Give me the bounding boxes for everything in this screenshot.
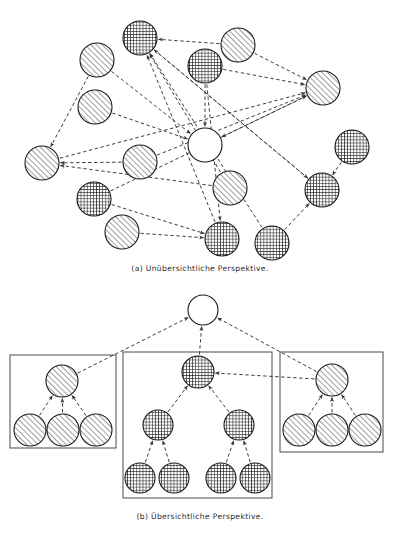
- grid-child-middle-left: [143, 410, 173, 440]
- grid-leaf-mr-2: [240, 463, 270, 493]
- hatch-child-right-1: [283, 414, 315, 446]
- caption-b: (b) Übersichtliche Perspektive.: [0, 512, 400, 521]
- panel-unuebersichtliche-perspektive: [0, 0, 400, 262]
- hatch-child-left-2: [47, 414, 79, 446]
- grid-node-bottom-mid: [205, 222, 239, 256]
- edge-a9-a8: [60, 162, 121, 163]
- hatch-node-far-right: [306, 71, 340, 105]
- edge-group-left-to-root: [78, 317, 189, 373]
- hatch-parent-left: [46, 365, 78, 397]
- grid-child-middle-right: [224, 410, 254, 440]
- hatch-child-right-2: [316, 414, 348, 446]
- edge-group-middle-to-root: [199, 326, 201, 354]
- grid-node-right-mid: [305, 173, 339, 207]
- diagram-b-canvas: [0, 285, 400, 503]
- empty-root-node: [188, 295, 218, 325]
- edge-bm-r2-bm-r: [244, 441, 250, 462]
- edge-a10-a12: [333, 162, 342, 175]
- caption-a: (a) Unübersichtliche Perspektive.: [0, 264, 400, 273]
- grid-node-right-high: [335, 130, 369, 164]
- hatch-parent-right: [316, 364, 348, 396]
- edge-bm-r1-bm-r: [226, 441, 233, 463]
- grid-node-bottom-right: [255, 226, 289, 260]
- hatch-node-bottom-left: [105, 215, 139, 249]
- edge-a4-a5: [223, 69, 305, 84]
- edge-br-c1-br-parent: [309, 395, 323, 416]
- grid-leaf-ml-1: [125, 463, 155, 493]
- edge-bm-l1-bm-l: [145, 441, 152, 463]
- grid-node-top: [123, 21, 157, 55]
- hatch-child-left-3: [80, 414, 112, 446]
- hatch-node-center-low: [213, 171, 247, 205]
- edge-br-c3-br-parent: [342, 395, 356, 416]
- edge-bl-c1-bl-parent: [40, 396, 53, 416]
- hatch-node-mid-low: [123, 145, 157, 179]
- edge-a14-a15: [140, 233, 203, 237]
- edge-group-right-to-root: [218, 318, 317, 372]
- hatch-node-upper-left: [80, 43, 114, 77]
- edge-bm-l2-bm-l: [163, 441, 169, 462]
- hatch-node-left-mid: [78, 90, 112, 124]
- grid-parent-middle: [182, 356, 214, 388]
- edge-a16-a12: [285, 203, 310, 229]
- hatch-node-left-low: [25, 146, 59, 180]
- edge-bm-r-bm-root: [209, 386, 229, 412]
- grid-node-upper-mid: [188, 49, 222, 83]
- edge-bm-l-bm-root: [168, 386, 188, 412]
- edge-a3-a5: [255, 53, 307, 79]
- grid-leaf-mr-1: [206, 463, 236, 493]
- grid-node-bottom-left: [77, 182, 111, 216]
- diagram-a-canvas: [0, 0, 400, 262]
- edge-a3-a1: [158, 39, 219, 43]
- empty-node-center: [188, 128, 222, 162]
- edge-bl-c3-bl-parent: [72, 395, 86, 415]
- hatch-node-top-right: [221, 28, 255, 62]
- panel-uebersichtliche-perspektive: [0, 285, 400, 503]
- hatch-child-right-3: [349, 414, 381, 446]
- edge-br-parent-bm-root: [215, 373, 314, 379]
- grid-leaf-ml-2: [159, 463, 189, 493]
- figure-container: (a) Unübersichtliche Perspektive. (b) Üb…: [0, 0, 400, 536]
- hatch-child-left-1: [14, 414, 46, 446]
